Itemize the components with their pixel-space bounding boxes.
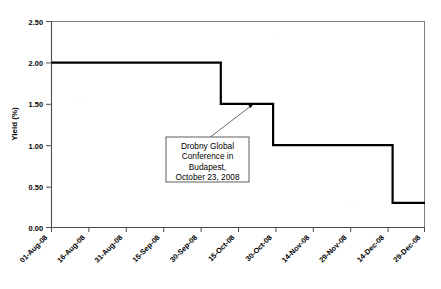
x-tick-label: 14-Dec-08 — [355, 233, 386, 264]
chart-svg: 2.50 2.00 1.50 1.00 0.50 0.00 Yield (%) … — [0, 0, 441, 289]
y-tick-label: 2.50 — [29, 18, 43, 27]
x-tick-label: 31-Aug-08 — [93, 233, 125, 265]
y-axis-ticks — [46, 22, 51, 228]
x-tick-label: 01-Aug-08 — [18, 233, 50, 265]
x-tick-label: 29-Dec-08 — [391, 233, 422, 264]
y-tick-label: 0.00 — [29, 224, 43, 233]
x-axis-tick-labels: 01-Aug-08 16-Aug-08 31-Aug-08 15-Sep-08 … — [18, 233, 423, 265]
y-tick-label: 2.00 — [29, 59, 43, 68]
annotation-line: Conference in — [182, 151, 234, 161]
chart-figure: 2.50 2.00 1.50 1.00 0.50 0.00 Yield (%) … — [0, 0, 441, 289]
annotation-line: Budapest, — [189, 162, 226, 172]
y-tick-label: 1.50 — [29, 100, 43, 109]
plot-area-background — [51, 21, 425, 228]
x-tick-label: 30-Sep-08 — [168, 233, 199, 264]
x-tick-label: 30-Oct-08 — [244, 233, 274, 263]
x-tick-label: 15-Oct-08 — [206, 233, 236, 263]
x-tick-label: 29-Nov-08 — [317, 233, 348, 264]
y-axis-tick-labels: 2.50 2.00 1.50 1.00 0.50 0.00 — [29, 18, 43, 233]
annotation-line: Drobny Global — [181, 141, 234, 151]
y-tick-label: 1.00 — [29, 142, 43, 151]
annotation-line: October 23, 2008 — [175, 172, 240, 182]
x-tick-label: 15-Sep-08 — [131, 233, 162, 264]
y-axis-title: Yield (%) — [10, 107, 19, 141]
x-axis-ticks — [52, 228, 425, 232]
y-tick-label: 0.50 — [29, 183, 43, 192]
x-tick-label: 14-Nov-08 — [280, 233, 311, 264]
x-tick-label: 16-Aug-08 — [55, 233, 87, 265]
